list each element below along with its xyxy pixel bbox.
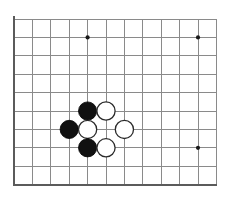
star-point-marker — [196, 35, 200, 39]
go-board-figure — [0, 0, 245, 198]
white-stone — [115, 120, 133, 138]
black-stone — [79, 102, 97, 120]
grid-lines — [14, 19, 216, 185]
board-edges — [13, 16, 217, 185]
black-stone — [60, 120, 78, 138]
white-stone — [97, 139, 115, 157]
star-point-marker — [86, 35, 90, 39]
white-stone — [97, 102, 115, 120]
go-board-canvas — [0, 0, 245, 198]
stones-layer — [60, 102, 133, 157]
star-point-marker — [196, 146, 200, 150]
black-stone — [79, 139, 97, 157]
white-stone — [79, 120, 97, 138]
